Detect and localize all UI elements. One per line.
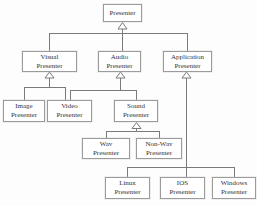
node-presenter: Presenter — [103, 4, 142, 22]
node-non-wav-presenter: Non-Wav Presenter — [136, 138, 182, 159]
inheritance-arrow-audio — [116, 72, 125, 78]
inheritance-arrow-application — [182, 72, 191, 78]
node-ios-presenter: IOS Presenter — [160, 177, 205, 199]
node-ios-presenter-label: IOS Presenter — [169, 179, 195, 197]
node-linux-presenter: Linux Presenter — [105, 177, 150, 199]
node-application-presenter: Application Presenter — [163, 51, 212, 72]
node-windows-presenter: Windows Presenter — [212, 177, 256, 199]
node-wav-presenter: Wav Presenter — [82, 138, 130, 159]
node-windows-presenter-label: Windows Presenter — [221, 179, 248, 197]
inheritance-arrow-visual — [45, 72, 54, 78]
node-presenter-label: Presenter — [109, 9, 135, 18]
connector-sound-children — [107, 129, 160, 139]
node-application-presenter-label: Application Presenter — [171, 53, 204, 71]
class-hierarchy-diagram: Presenter Visual Presenter Audio Present… — [0, 0, 257, 206]
node-linux-presenter-label: Linux Presenter — [114, 179, 140, 197]
inheritance-arrow-sound — [132, 123, 141, 129]
node-audio-presenter-label: Audio Presenter — [106, 53, 132, 71]
connector-audio-children — [71, 78, 137, 100]
node-video-presenter-label: Video Presenter — [56, 102, 82, 120]
inheritance-arrow-presenter — [118, 23, 127, 30]
node-video-presenter: Video Presenter — [47, 100, 92, 122]
node-visual-presenter: Visual Presenter — [22, 51, 77, 72]
connector-application-children — [128, 78, 235, 177]
node-sound-presenter-label: Sound Presenter — [123, 102, 149, 120]
node-wav-presenter-label: Wav Presenter — [93, 140, 119, 158]
node-image-presenter: Image Presenter — [3, 100, 45, 122]
node-sound-presenter: Sound Presenter — [114, 100, 158, 122]
node-visual-presenter-label: Visual Presenter — [36, 53, 62, 71]
node-audio-presenter: Audio Presenter — [98, 51, 141, 72]
connector-presenter-children — [50, 29, 188, 51]
connector-visual-children — [25, 78, 66, 100]
node-image-presenter-label: Image Presenter — [11, 102, 37, 120]
node-non-wav-presenter-label: Non-Wav Presenter — [145, 140, 172, 158]
